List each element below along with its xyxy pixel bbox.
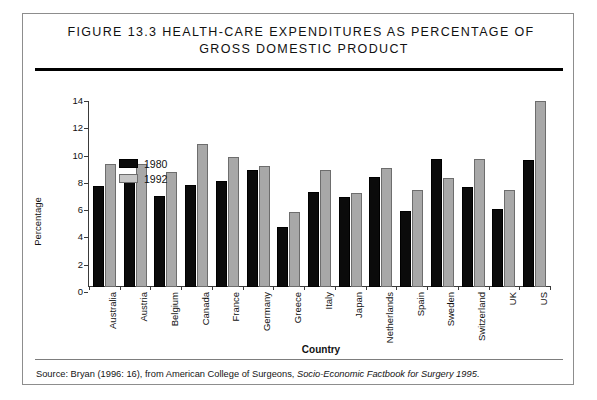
x-tick-mark	[489, 286, 490, 290]
bar-canada-1992	[197, 144, 208, 287]
y-tick-mark-0	[84, 292, 88, 293]
x-axis-label-us: US	[539, 292, 549, 305]
legend-label-1980: 1980	[144, 158, 167, 170]
legend-label-1992: 1992	[144, 173, 167, 185]
x-axis-label-canada: Canada	[201, 292, 211, 325]
chart-legend: 1980 1992	[119, 156, 167, 186]
x-tick-mark	[181, 286, 182, 290]
legend-swatch-1992-icon	[119, 174, 138, 183]
bar-uk-1992	[504, 190, 515, 287]
bar-group	[150, 96, 181, 287]
x-tick-mark	[396, 286, 397, 290]
x-axis-label-france: France	[231, 292, 241, 322]
bar-japan-1980	[339, 197, 350, 287]
x-tick-mark	[458, 286, 459, 290]
bar-group	[335, 96, 366, 287]
x-axis-label-germany: Germany	[262, 292, 272, 331]
bar-us-1980	[523, 160, 534, 287]
x-tick-mark	[273, 286, 274, 290]
bar-group	[366, 96, 397, 287]
source-note: Source: Bryan (1996: 16), from American …	[36, 369, 566, 379]
bar-sweden-1980	[431, 159, 442, 287]
bar-greece-1980	[277, 227, 288, 287]
x-tick-mark	[335, 286, 336, 290]
x-axis-label-netherlands: Netherlands	[385, 292, 395, 343]
bar-austria-1980	[124, 177, 135, 288]
y-tick-label-8: 8	[78, 178, 83, 188]
y-tick-label-0: 0	[78, 287, 83, 297]
bar-sweden-1992	[443, 178, 454, 287]
y-axis-ticks: 02468101214	[53, 96, 83, 286]
bar-series-container	[89, 96, 550, 287]
x-tick-mark	[427, 286, 428, 290]
source-divider	[35, 359, 563, 360]
figure-title: Figure 13.3 Health-Care Expenditures as …	[23, 24, 573, 58]
x-axis-label-uk: UK	[508, 292, 518, 305]
x-axis-label-switzerland: Switzerland	[477, 292, 487, 341]
bar-japan-1992	[351, 193, 362, 287]
y-tick-label-4: 4	[78, 233, 83, 243]
bar-spain-1980	[400, 211, 411, 287]
bar-switzerland-1980	[462, 187, 473, 287]
bar-spain-1992	[412, 190, 423, 287]
x-tick-mark	[243, 286, 244, 290]
bar-group	[89, 96, 120, 287]
source-italic-title: Socio-Economic Factbook for Surgery 1995	[297, 369, 477, 379]
source-suffix: .	[477, 369, 480, 379]
bar-group	[519, 96, 550, 287]
bar-group	[181, 96, 212, 287]
bar-group	[304, 96, 335, 287]
y-tick-label-14: 14	[72, 96, 83, 106]
bar-germany-1980	[247, 170, 258, 287]
bar-belgium-1980	[154, 196, 165, 287]
bar-australia-1992	[105, 164, 116, 287]
bar-group	[396, 96, 427, 287]
bar-group	[212, 96, 243, 287]
figure-frame: Figure 13.3 Health-Care Expenditures as …	[22, 13, 574, 385]
x-axis-label-sweden: Sweden	[446, 292, 456, 326]
bar-italy-1992	[320, 170, 331, 287]
chart-plot-area: Percentage 02468101214 Country 1980 1992…	[23, 76, 575, 356]
y-tick-label-12: 12	[72, 124, 83, 134]
bar-group	[489, 96, 520, 287]
bar-group	[120, 96, 151, 287]
x-axis-label-japan: Japan	[354, 292, 364, 318]
bar-greece-1992	[289, 212, 300, 287]
bar-group	[458, 96, 489, 287]
x-tick-mark	[120, 286, 121, 290]
x-tick-mark	[150, 286, 151, 290]
bar-italy-1980	[308, 192, 319, 288]
bar-switzerland-1992	[474, 159, 485, 287]
bar-france-1992	[228, 157, 239, 287]
title-divider	[35, 68, 563, 71]
y-tick-label-2: 2	[78, 260, 83, 270]
x-axis-title: Country	[23, 344, 575, 355]
bar-belgium-1992	[166, 172, 177, 287]
x-axis-label-italy: Italy	[324, 292, 334, 309]
bar-us-1992	[535, 101, 546, 287]
x-tick-mark	[89, 286, 90, 290]
x-axis-label-belgium: Belgium	[170, 292, 180, 326]
bar-group	[427, 96, 458, 287]
x-tick-mark	[519, 286, 520, 290]
bar-group	[243, 96, 274, 287]
x-tick-mark	[550, 286, 551, 290]
legend-item-1980: 1980	[119, 156, 167, 171]
legend-item-1992: 1992	[119, 171, 167, 186]
x-tick-mark	[304, 286, 305, 290]
y-tick-label-6: 6	[78, 205, 83, 215]
bar-netherlands-1992	[381, 168, 392, 287]
figure-title-line-1: Figure 13.3 Health-Care Expenditures as …	[23, 24, 573, 41]
source-prefix: Source: Bryan (1996: 16), from American …	[36, 369, 297, 379]
y-axis-title: Percentage	[32, 162, 43, 282]
x-axis-label-greece: Greece	[293, 292, 303, 323]
bar-uk-1980	[492, 209, 503, 287]
x-axis-label-austria: Austria	[139, 292, 149, 322]
x-axis-label-spain: Spain	[416, 292, 426, 316]
bar-group	[273, 96, 304, 287]
x-tick-mark	[212, 286, 213, 290]
y-tick-label-10: 10	[72, 151, 83, 161]
bar-france-1980	[216, 181, 227, 287]
figure-title-line-2: Gross Domestic Product	[23, 41, 573, 58]
legend-swatch-1980-icon	[119, 159, 138, 168]
